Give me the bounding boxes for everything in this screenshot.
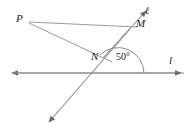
line-ell-transversal-lower — [49, 29, 130, 122]
angle-measure-label: 50° — [116, 52, 130, 62]
point-label-n: N — [91, 51, 98, 62]
point-label-m: M — [136, 18, 145, 29]
segment-PN — [29, 23, 112, 62]
line-label-l: l — [169, 55, 172, 66]
line-label-ell: ℓ — [145, 6, 149, 16]
segment-PM — [29, 22, 137, 27]
geometry-canvas — [0, 0, 195, 136]
point-label-p: P — [16, 13, 23, 24]
geometry-figure: P M N ℓ l 50° — [0, 0, 195, 136]
